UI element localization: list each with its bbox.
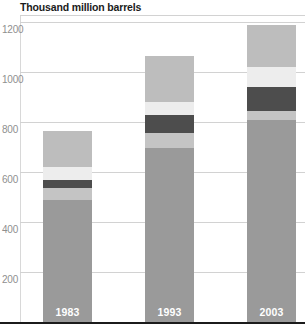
page-title: Thousand million barrels (20, 1, 141, 13)
title-divider (20, 15, 305, 16)
x-axis-baseline (0, 322, 305, 324)
bar-segment-segment-1-base[interactable] (43, 200, 92, 322)
y-axis-tick-label: 200 (0, 274, 38, 285)
bar-segment-segment-5-top[interactable] (145, 56, 194, 102)
y-axis-tick-label: 1200 (0, 24, 38, 35)
bar-segment-segment-3-dark[interactable] (247, 87, 296, 111)
y-axis-tick-label: 600 (0, 174, 38, 185)
bar-1993[interactable] (145, 56, 194, 322)
y-axis-tick-label: 400 (0, 224, 38, 235)
bar-1983[interactable] (43, 131, 92, 322)
y-axis-tick-label: 1000 (0, 74, 38, 85)
x-axis-label-1993: 1993 (145, 306, 194, 318)
bar-segment-segment-2[interactable] (247, 111, 296, 120)
bar-2003[interactable] (247, 25, 296, 322)
bar-segment-segment-4-light[interactable] (43, 167, 92, 180)
bar-segment-segment-5-top[interactable] (247, 25, 296, 67)
bar-segment-segment-4-light[interactable] (145, 102, 194, 115)
bar-segment-segment-3-dark[interactable] (43, 180, 92, 188)
bar-segment-segment-4-light[interactable] (247, 67, 296, 87)
x-axis-label-2003: 2003 (247, 306, 296, 318)
bar-segment-segment-1-base[interactable] (247, 120, 296, 322)
y-axis-tick-label: 800 (0, 124, 38, 135)
bar-segment-segment-5-top[interactable] (43, 131, 92, 167)
bar-segment-segment-3-dark[interactable] (145, 115, 194, 133)
gridline (20, 22, 305, 23)
x-axis-label-1983: 1983 (43, 306, 92, 318)
bar-segment-segment-2[interactable] (43, 188, 92, 200)
bar-segment-segment-2[interactable] (145, 133, 194, 148)
stacked-bar-chart: Thousand million barrels 120010008006004… (0, 0, 305, 325)
bar-segment-segment-1-base[interactable] (145, 148, 194, 322)
